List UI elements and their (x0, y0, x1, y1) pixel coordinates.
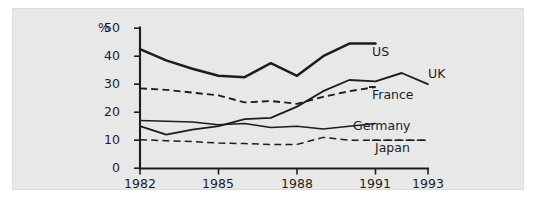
y-tick-label-50: 50 (86, 22, 120, 35)
series-label-germany: Germany (353, 120, 410, 133)
series-label-uk: UK (428, 68, 445, 81)
x-tick-label-1985: 1985 (193, 178, 243, 191)
x-tick-label-1988: 1988 (272, 178, 322, 191)
series-label-japan: Japan (375, 142, 410, 155)
x-tick-label-1993: 1993 (403, 178, 453, 191)
y-tick-label-30: 30 (86, 78, 120, 91)
chart-container: % 50 40 30 20 10 0 1982 1985 1988 1991 1… (0, 0, 536, 208)
x-tick-label-1982: 1982 (115, 178, 165, 191)
chart-plot-area (0, 0, 536, 208)
series-line-germany (140, 121, 376, 129)
series-line-france (140, 87, 376, 104)
y-tick-label-0: 0 (86, 162, 120, 175)
y-tick-label-40: 40 (86, 50, 120, 63)
series-label-us: US (372, 46, 389, 59)
y-tick-label-10: 10 (86, 134, 120, 147)
series-label-france: France (372, 89, 414, 102)
x-tick-label-1991: 1991 (350, 178, 400, 191)
y-tick-label-20: 20 (86, 106, 120, 119)
series-line-us (140, 44, 376, 78)
